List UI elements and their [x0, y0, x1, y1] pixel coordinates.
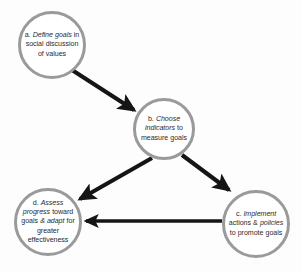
node-a-marker: a. [25, 31, 31, 39]
node-a-define-goals[interactable]: a. Define goals in social discussion of … [18, 11, 86, 79]
node-c-rest: to promote goals [230, 229, 282, 237]
node-c-label: c. Implement actions & policies to promo… [225, 210, 287, 237]
node-d-marker: d. [33, 199, 39, 207]
arrow-b-to-d [80, 158, 152, 199]
node-c-mid: actions & [229, 219, 258, 227]
node-d-emphasis-two: & adapt [40, 217, 64, 225]
node-d-label: d. Assess progress toward goals & adapt … [17, 199, 79, 244]
node-c-implement-actions[interactable]: c. Implement actions & policies to promo… [222, 190, 290, 258]
node-c-emphasis-two: policies [260, 219, 283, 227]
node-b-marker: b. [148, 115, 154, 123]
node-a-label: a. Define goals in social discussion of … [21, 31, 83, 58]
node-a-emphasis: Define goals [33, 31, 72, 39]
diagram-canvas: a. Define goals in social discussion of … [0, 0, 302, 271]
node-c-marker: c. [236, 210, 241, 218]
node-b-choose-indicators[interactable]: b. Choose indicators to measure goals [133, 98, 195, 160]
node-b-label: b. Choose indicators to measure goals [136, 115, 192, 142]
node-d-assess-progress[interactable]: d. Assess progress toward goals & adapt … [14, 188, 82, 256]
node-c-emphasis: Implement [243, 210, 276, 218]
arrow-a-to-b [72, 70, 134, 110]
arrow-b-to-c [182, 155, 229, 190]
